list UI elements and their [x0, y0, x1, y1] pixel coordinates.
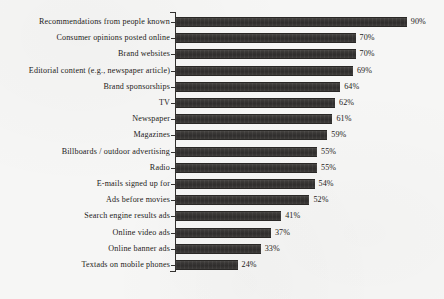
- category-label: Brand websites: [0, 46, 170, 62]
- axis-tick-mark: [171, 22, 175, 23]
- axis-tick-mark: [171, 216, 175, 217]
- axis-tick-mark: [171, 200, 175, 201]
- bar: [176, 260, 238, 270]
- bar-row: Brand sponsorships64%: [0, 79, 444, 95]
- axis-tick-mark: [171, 184, 175, 185]
- category-label: Radio: [0, 160, 170, 176]
- bar-value-label: 62%: [339, 95, 354, 111]
- bar-value-label: 54%: [319, 176, 334, 192]
- category-label: Brand sponsorships: [0, 79, 170, 95]
- axis-tick-mark: [171, 54, 175, 55]
- bar-value-label: 24%: [242, 257, 257, 273]
- bar-row: E-mails signed up for54%: [0, 176, 444, 192]
- category-label: Search engine results ads: [0, 208, 170, 224]
- bar-row: Ads before movies52%: [0, 192, 444, 208]
- bar-value-label: 59%: [331, 127, 346, 143]
- plot-area: Recommendations from people known90%Cons…: [0, 12, 444, 274]
- bar-row: Editorial content (e.g., newspaper artic…: [0, 63, 444, 79]
- bar: [176, 114, 332, 124]
- bar: [176, 244, 261, 254]
- axis-tick-mark: [171, 87, 175, 88]
- bar-row: Online banner ads33%: [0, 241, 444, 257]
- category-label: TV: [0, 95, 170, 111]
- category-label: Magazines: [0, 127, 170, 143]
- bar-value-label: 33%: [265, 241, 280, 257]
- horizontal-bar-chart: Recommendations from people known90%Cons…: [0, 0, 444, 299]
- bar-value-label: 41%: [285, 208, 300, 224]
- bar-value-label: 70%: [360, 30, 375, 46]
- bar: [176, 211, 281, 221]
- bar-row: TV62%: [0, 95, 444, 111]
- category-label: Editorial content (e.g., newspaper artic…: [0, 63, 170, 79]
- bar-row: Search engine results ads41%: [0, 208, 444, 224]
- axis-tick-mark: [171, 168, 175, 169]
- bar-row: Recommendations from people known90%: [0, 14, 444, 30]
- axis-tick-mark: [171, 38, 175, 39]
- bar-value-label: 55%: [321, 160, 336, 176]
- bar-row: Newspaper61%: [0, 111, 444, 127]
- bar: [176, 17, 407, 27]
- axis-tick-mark: [171, 103, 175, 104]
- bar: [176, 179, 315, 189]
- bar: [176, 49, 356, 59]
- bar-value-label: 55%: [321, 144, 336, 160]
- category-label: Consumer opinions posted online: [0, 30, 170, 46]
- axis-tick-mark: [171, 135, 175, 136]
- category-label: Ads before movies: [0, 192, 170, 208]
- bar-row: Online video ads37%: [0, 225, 444, 241]
- bar-value-label: 64%: [344, 79, 359, 95]
- axis-tick-mark: [171, 119, 175, 120]
- bar: [176, 228, 271, 238]
- bar: [176, 163, 317, 173]
- axis-tick-mark: [171, 265, 175, 266]
- axis-tick-mark: [171, 152, 175, 153]
- bar: [176, 98, 335, 108]
- bar-row: Radio55%: [0, 160, 444, 176]
- axis-tick-mark: [171, 71, 175, 72]
- bar-row: Consumer opinions posted online70%: [0, 30, 444, 46]
- bar-value-label: 69%: [357, 63, 372, 79]
- bar-value-label: 61%: [336, 111, 351, 127]
- bar-series: Recommendations from people known90%Cons…: [0, 12, 444, 272]
- bar: [176, 147, 317, 157]
- bar-row: Billboards / outdoor advertising55%: [0, 144, 444, 160]
- category-label: Online video ads: [0, 225, 170, 241]
- bar: [176, 66, 353, 76]
- bar-row: Textads on mobile phones24%: [0, 257, 444, 273]
- category-label: Recommendations from people known: [0, 14, 170, 30]
- bar-value-label: 37%: [275, 225, 290, 241]
- category-label: Billboards / outdoor advertising: [0, 144, 170, 160]
- bar: [176, 195, 309, 205]
- bar-value-label: 70%: [360, 46, 375, 62]
- category-label: Online banner ads: [0, 241, 170, 257]
- bar-value-label: 90%: [411, 14, 426, 30]
- bar-row: Brand websites70%: [0, 46, 444, 62]
- bar: [176, 130, 327, 140]
- category-label: Textads on mobile phones: [0, 257, 170, 273]
- bar-value-label: 52%: [313, 192, 328, 208]
- bar: [176, 82, 340, 92]
- bar-row: Magazines59%: [0, 127, 444, 143]
- category-label: E-mails signed up for: [0, 176, 170, 192]
- axis-tick-mark: [171, 249, 175, 250]
- axis-tick-mark: [171, 233, 175, 234]
- bar: [176, 33, 356, 43]
- category-label: Newspaper: [0, 111, 170, 127]
